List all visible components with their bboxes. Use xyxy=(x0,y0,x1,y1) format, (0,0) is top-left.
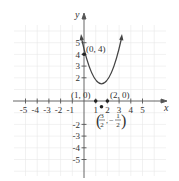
svg-text:2: 2 xyxy=(100,121,104,129)
svg-text:-5: -5 xyxy=(73,155,81,165)
svg-text:-4: -4 xyxy=(31,105,39,115)
label-1-0: (1, 0) xyxy=(71,90,91,100)
svg-text:5: 5 xyxy=(76,38,81,48)
svg-text:2: 2 xyxy=(105,105,110,115)
svg-text:1: 1 xyxy=(116,112,120,120)
curve-arrow-left-icon xyxy=(80,34,84,41)
x-axis-label: x xyxy=(163,102,169,113)
curve-arrow-right-icon xyxy=(119,34,123,41)
y-axis-arrow-icon xyxy=(82,13,86,19)
point-1-0 xyxy=(94,99,98,103)
x-tick-labels: -5 -4 -3 -2 -1 1 2 3 4 5 xyxy=(20,105,146,115)
svg-text:-1: -1 xyxy=(67,105,75,115)
svg-text:4: 4 xyxy=(76,50,81,60)
point-2-0 xyxy=(106,99,110,103)
svg-text:-3: -3 xyxy=(73,131,81,141)
svg-text:2: 2 xyxy=(116,121,120,129)
svg-text:-3: -3 xyxy=(43,105,51,115)
vertex-point xyxy=(100,105,104,109)
svg-text:-4: -4 xyxy=(73,143,81,153)
y-axis-label: y xyxy=(74,9,80,20)
vertex-label: ( 3 2 , − 1 2 ) xyxy=(96,112,126,130)
svg-text:4: 4 xyxy=(129,105,134,115)
svg-text:5: 5 xyxy=(140,105,145,115)
svg-text:-5: -5 xyxy=(20,105,28,115)
svg-text:2: 2 xyxy=(76,73,81,83)
svg-text:,: , xyxy=(106,116,108,125)
svg-text:-2: -2 xyxy=(55,105,63,115)
svg-text:−: − xyxy=(109,116,114,125)
svg-text:3: 3 xyxy=(76,61,81,71)
parabola-graph: x y -5 -4 -3 -2 -1 1 2 3 4 5 5 4 3 2 -2 … xyxy=(0,0,179,181)
label-0-4: (0, 4) xyxy=(86,44,106,54)
svg-text:-2: -2 xyxy=(73,120,81,130)
svg-text:3: 3 xyxy=(100,112,104,120)
label-2-0: (2, 0) xyxy=(110,90,130,100)
svg-text:): ) xyxy=(121,112,126,130)
